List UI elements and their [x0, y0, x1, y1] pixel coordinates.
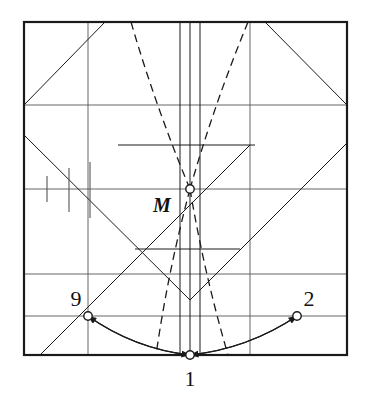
figure-root: M 1 9 2 — [0, 0, 369, 397]
point-label-9: 9 — [71, 286, 82, 311]
point-marker-M — [186, 185, 194, 193]
point-marker-p2 — [293, 312, 301, 320]
point-label-M: M — [152, 194, 172, 216]
geometry-diagram: M 1 9 2 — [0, 0, 369, 397]
point-label-2: 2 — [304, 286, 315, 311]
point-marker-p1 — [186, 351, 194, 359]
canvas-background — [0, 0, 369, 397]
point-label-1: 1 — [185, 366, 196, 391]
point-marker-p9 — [84, 312, 92, 320]
